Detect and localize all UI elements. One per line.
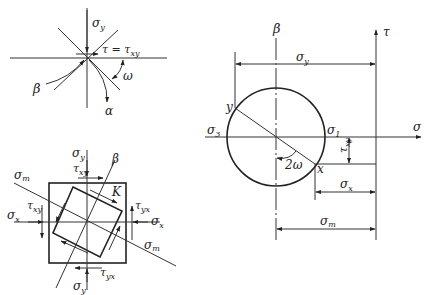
label-tau-axis: τ (383, 25, 390, 39)
beta-line (56, 160, 115, 288)
alpha-curve (89, 60, 107, 102)
label-point-x: x (317, 162, 324, 176)
label-tau-xy-top: τxy (73, 162, 89, 177)
bottom-left-stress-element: σy β τxy σm K τxy τyx σx σx σm τyx σy (7, 146, 176, 295)
label-sigma-3: σ3 (207, 123, 220, 139)
label-sigma-x-dim: σx (340, 177, 353, 193)
omega-arc (112, 60, 123, 79)
label-sigma-1: σ1 (327, 123, 340, 139)
label-two-omega: 2ω (284, 158, 303, 172)
mohr-circle-stress-diagram: σy τ = τxy ω β α σy β τxy σm K τxy τy (0, 0, 428, 295)
diameter-y-x (235, 108, 315, 164)
label-beta: β (272, 21, 281, 36)
label-sigma-m-left: σm (14, 168, 30, 183)
label-sigma-m-right: σm (144, 238, 160, 253)
label-sigma-axis: σ (413, 120, 422, 134)
label-tau-xy-left: τxy (27, 199, 43, 214)
label-point-y: y (225, 100, 233, 114)
label-sigma-y: σy (92, 16, 105, 32)
label-beta: β (111, 152, 119, 166)
label-k: K (111, 185, 122, 199)
label-sigma-x-left: σx (7, 208, 20, 224)
label-tau-eq-tau-xy: τ = τxy (102, 43, 140, 58)
label-omega: ω (123, 69, 133, 83)
label-sigma-y-bottom: σy (73, 279, 86, 295)
diagonal-line-nw (54, 30, 118, 90)
top-left-orientation-diagram: σy τ = τxy ω β α (10, 8, 167, 118)
label-tau-yx-bottom: τyx (100, 266, 116, 281)
label-sigma-y-top: σy (72, 146, 85, 162)
label-sigma-y-dim: σy (296, 50, 309, 66)
label-sigma-m-dim: σm (320, 214, 336, 229)
beta-curve (46, 60, 84, 84)
label-alpha: α (105, 104, 113, 118)
mohr-circle-diagram: β τ σy y σ3 σ1 σ τxy 2ω x σx σm (205, 21, 422, 240)
label-tau-xy-dim: τxy (337, 137, 352, 153)
shear-arrow-right (109, 226, 120, 250)
label-beta: β (32, 81, 41, 96)
shear-arrow-left (56, 203, 65, 222)
label-sigma-x-right: σx (151, 214, 164, 230)
label-tau-yx-right: τyx (135, 199, 151, 214)
shear-arrow-bottom (61, 241, 88, 253)
